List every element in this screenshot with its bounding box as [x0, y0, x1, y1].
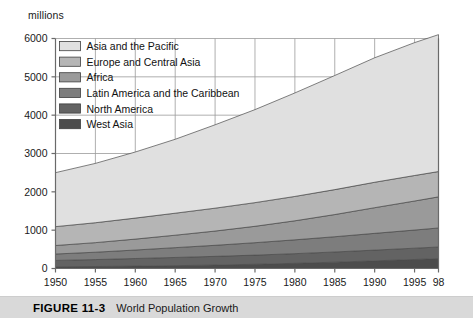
- figure-container: millions 0100020003000400050006000195019…: [0, 0, 473, 318]
- y-axis-tick-label: 1000: [24, 224, 48, 236]
- area-series-group: [56, 35, 439, 269]
- y-axis-tick-label: 0: [42, 262, 48, 274]
- x-axis-tick-label: 1950: [44, 276, 68, 288]
- stacked-area-chart: 0100020003000400050006000195019551960196…: [0, 22, 473, 290]
- legend-swatch: [60, 88, 81, 97]
- figure-title: World Population Growth: [116, 302, 238, 314]
- x-axis-tick-label: 1995: [403, 276, 427, 288]
- x-axis-tick-label: 1955: [84, 276, 108, 288]
- y-axis-unit-label: millions: [28, 9, 64, 21]
- legend-swatch: [60, 73, 81, 82]
- legend-swatch: [60, 120, 81, 129]
- x-axis-tick-label: 1990: [363, 276, 387, 288]
- x-axis-tick-label: 1965: [164, 276, 188, 288]
- x-axis-tick-label: 1980: [283, 276, 307, 288]
- x-axis-tick-label: 1960: [124, 276, 148, 288]
- legend-label: Asia and the Pacific: [87, 40, 179, 52]
- figure-caption-bar: FIGURE 11-3 World Population Growth: [0, 296, 473, 318]
- x-axis-tick-label: 98: [433, 276, 445, 288]
- x-axis-tick-label: 1975: [243, 276, 267, 288]
- y-axis-tick-label: 5000: [24, 71, 48, 83]
- x-axis-tick-label: 1970: [203, 276, 227, 288]
- legend-label: Latin America and the Caribbean: [87, 87, 240, 99]
- legend-swatch: [60, 57, 81, 66]
- x-axis-tick-label: 1985: [323, 276, 347, 288]
- figure-number: FIGURE 11-3: [33, 302, 105, 314]
- y-axis-tick-label: 3000: [24, 147, 48, 159]
- chart-plot-area: 0100020003000400050006000195019551960196…: [0, 22, 473, 290]
- legend-swatch: [60, 104, 81, 113]
- legend-label: North America: [87, 103, 154, 115]
- y-axis-tick-label: 4000: [24, 109, 48, 121]
- chart-legend: Asia and the PacificEurope and Central A…: [60, 40, 240, 130]
- legend-label: Europe and Central Asia: [87, 56, 201, 68]
- legend-label: West Asia: [87, 118, 134, 130]
- legend-label: Africa: [87, 71, 114, 83]
- y-axis-tick-label: 2000: [24, 186, 48, 198]
- legend-swatch: [60, 42, 81, 51]
- y-axis-tick-label: 6000: [24, 32, 48, 44]
